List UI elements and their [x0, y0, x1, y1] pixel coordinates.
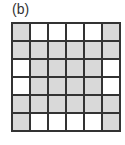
grid-cell-r2-c3	[48, 41, 66, 59]
shaded-grid	[11, 22, 121, 132]
figure-label: (b)	[12, 1, 29, 17]
grid-cell-r5-c1	[12, 95, 30, 113]
grid-cell-r6-c2	[30, 113, 48, 131]
grid-cell-r4-c6	[102, 77, 120, 95]
grid-cell-r2-c4	[66, 41, 84, 59]
grid-cell-r1-c5	[84, 23, 102, 41]
grid-cell-r6-c6	[102, 113, 120, 131]
grid-cell-r5-c4	[66, 95, 84, 113]
grid-cell-r1-c1	[12, 23, 30, 41]
grid-cell-r2-c2	[30, 41, 48, 59]
grid-cell-r6-c4	[66, 113, 84, 131]
grid-cell-r1-c6	[102, 23, 120, 41]
grid-cell-r6-c5	[84, 113, 102, 131]
grid-cell-r4-c3	[48, 77, 66, 95]
grid-cell-r6-c3	[48, 113, 66, 131]
grid-cell-r2-c6	[102, 41, 120, 59]
grid-cell-r1-c2	[30, 23, 48, 41]
grid-cell-r6-c1	[12, 113, 30, 131]
grid-cell-r3-c6	[102, 59, 120, 77]
grid-cell-r4-c1	[12, 77, 30, 95]
grid-cell-r5-c5	[84, 95, 102, 113]
grid-cell-r5-c2	[30, 95, 48, 113]
grid-cell-r2-c1	[12, 41, 30, 59]
grid-cell-r3-c3	[48, 59, 66, 77]
grid-cell-r4-c2	[30, 77, 48, 95]
grid-cell-r3-c1	[12, 59, 30, 77]
grid-cell-r1-c3	[48, 23, 66, 41]
grid-cell-r3-c2	[30, 59, 48, 77]
grid-cell-r3-c4	[66, 59, 84, 77]
grid-cell-r4-c5	[84, 77, 102, 95]
grid-cell-r1-c4	[66, 23, 84, 41]
grid-cell-r5-c3	[48, 95, 66, 113]
grid-cell-r5-c6	[102, 95, 120, 113]
grid-cell-r2-c5	[84, 41, 102, 59]
grid-cell-r3-c5	[84, 59, 102, 77]
grid-cell-r4-c4	[66, 77, 84, 95]
